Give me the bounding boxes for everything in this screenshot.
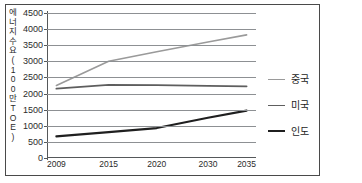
y-tick-mark	[44, 13, 47, 14]
legend-item-label: 중국	[291, 74, 309, 85]
gridline	[47, 13, 256, 14]
legend-item-label: 미국	[291, 100, 309, 111]
x-tick-label: 2020	[147, 160, 166, 169]
legend-item-label: 인도	[291, 126, 309, 137]
y-tick-mark	[44, 142, 47, 143]
chart-figure: 에너지수요(100만TOE) 0500100015002000250030003…	[0, 0, 362, 183]
x-tick-label: 2030	[198, 160, 217, 169]
gridline	[47, 126, 256, 127]
y-tick-label: 1500	[15, 105, 43, 114]
x-tick-label: 2009	[47, 160, 66, 169]
plot-inner: 0500100015002000250030003500400045002009…	[47, 13, 256, 158]
y-tick-label: 4500	[15, 9, 43, 18]
gridline	[47, 29, 256, 30]
gridline	[47, 61, 256, 62]
y-tick-mark	[44, 94, 47, 95]
y-tick-label: 0	[15, 154, 43, 163]
gridline	[47, 142, 256, 143]
legend-item[interactable]: 중국	[268, 66, 360, 92]
plot-area: 0500100015002000250030003500400045002009…	[47, 13, 256, 158]
gridline	[47, 94, 256, 95]
legend-item[interactable]: 미국	[268, 92, 360, 118]
y-tick-mark	[44, 77, 47, 78]
legend-item[interactable]: 인도	[268, 118, 360, 144]
y-tick-label: 500	[15, 137, 43, 146]
y-tick-mark	[44, 45, 47, 46]
gridline	[47, 77, 256, 78]
legend-line-swatch	[268, 105, 285, 106]
y-tick-label: 1000	[15, 121, 43, 130]
y-tick-label: 3000	[15, 57, 43, 66]
series-layer	[47, 13, 256, 158]
y-tick-mark	[44, 110, 47, 111]
y-tick-label: 2000	[15, 89, 43, 98]
series-line	[56, 85, 246, 89]
y-tick-label: 4000	[15, 25, 43, 34]
x-tick-label: 2015	[99, 160, 118, 169]
legend-line-swatch	[268, 130, 285, 132]
y-tick-label: 3500	[15, 41, 43, 50]
series-line	[56, 111, 246, 137]
legend-line-swatch	[268, 79, 285, 80]
x-tick-label: 2035	[237, 160, 256, 169]
y-tick-mark	[44, 61, 47, 62]
gridline	[47, 110, 256, 111]
gridline	[47, 45, 256, 46]
y-tick-mark	[44, 29, 47, 30]
y-tick-mark	[44, 126, 47, 127]
chart-legend: 중국미국인도	[268, 66, 360, 144]
y-tick-label: 2500	[15, 73, 43, 82]
